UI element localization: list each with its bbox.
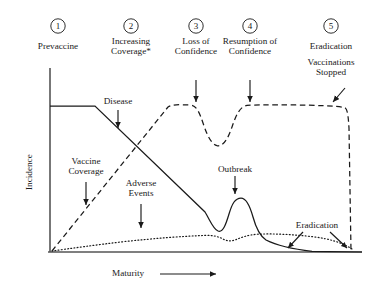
adverse-events-curve (52, 234, 352, 251)
curve-label-disease: Disease (78, 96, 158, 106)
annotation-vaccinations-stopped: Vaccinations Stopped (286, 57, 376, 78)
curve-label-outbreak: Outbreak (195, 164, 275, 174)
eradication-pointer-arrow-right (330, 232, 347, 248)
y-axis-label: Incidence (24, 154, 34, 190)
stage-number-digits: 1 2 3 4 5 (56, 21, 334, 31)
curve-label-adverse-events: Adverse Events (101, 178, 181, 199)
stage-digit-1: 1 (56, 21, 61, 31)
vaccinations-stopped-pointer-arrow (333, 88, 345, 102)
stage-digit-4: 4 (248, 21, 253, 31)
stage-digit-5: 5 (329, 21, 334, 31)
stage-digit-2: 2 (129, 21, 134, 31)
stage-label-eradication: Eradication (283, 41, 377, 51)
curve-label-vaccine-coverage: Vaccine Coverage (46, 156, 126, 177)
curve-label-eradication: Eradication (277, 220, 357, 230)
x-axis-label: Maturity (112, 268, 144, 278)
vaccine-program-lifecycle-figure: 1 2 3 4 5 Prevaccine Incr (0, 0, 377, 294)
stage-digit-3: 3 (194, 21, 199, 31)
